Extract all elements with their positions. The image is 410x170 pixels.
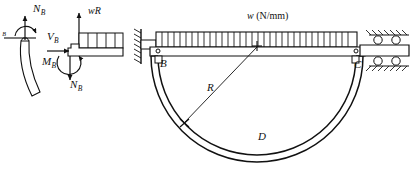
roller-upper-1 — [374, 36, 382, 44]
roller-lower-2 — [392, 57, 400, 65]
roller-top-hatch — [366, 30, 407, 35]
label-moment: MB — [42, 56, 56, 70]
pin-circle-b — [156, 49, 160, 53]
pin-circle-c — [354, 49, 358, 53]
arch-outer-curve — [151, 56, 363, 162]
label-resultant-load: wR — [88, 6, 101, 16]
roller-upper-2 — [392, 36, 400, 44]
label-distributed-load: w (N/mm) — [247, 11, 288, 21]
arch-inner-curve — [158, 56, 356, 155]
fbd-left-group — [4, 16, 40, 96]
label-normal-force-left: NB — [33, 3, 45, 17]
moment-arc-middle — [57, 56, 81, 75]
label-point-b: B — [160, 58, 167, 69]
arch-figure-group — [134, 29, 409, 162]
label-point-c: C — [354, 59, 361, 70]
label-shear-force: VB — [47, 31, 59, 45]
engineering-figure: NB B wR VB MB NB w (N/mm) B C R D — [0, 0, 410, 170]
radius-end-marker — [180, 119, 189, 127]
distributed-load-box — [79, 33, 123, 48]
curved-beam-member — [20, 41, 40, 96]
roller-slider-bar — [360, 45, 409, 56]
left-wall-hatch — [134, 29, 141, 63]
label-partial-b-left: B — [2, 26, 6, 37]
radius-line — [184, 47, 257, 123]
roller-bottom-hatch — [366, 66, 407, 71]
label-point-d: D — [258, 131, 266, 142]
fbd-middle-group — [47, 13, 123, 80]
roller-lower-1 — [374, 57, 382, 65]
figure-canvas — [0, 0, 410, 170]
label-radius: R — [207, 82, 214, 93]
label-normal-force-middle: NB — [70, 79, 82, 93]
